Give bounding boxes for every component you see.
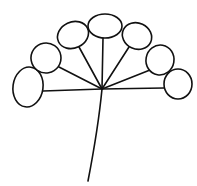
umbel-drawing	[0, 0, 197, 186]
ray-line-4	[102, 38, 103, 89]
stem-line	[88, 89, 102, 181]
ray-line-5	[102, 47, 129, 89]
ray-line-6	[102, 70, 150, 89]
floret-left-top	[53, 16, 93, 53]
ray-line-1	[43, 89, 102, 91]
floret-far-right	[164, 69, 192, 99]
ray-line-7	[102, 88, 164, 89]
umbel-figure	[0, 0, 197, 186]
floret-top	[88, 14, 122, 38]
